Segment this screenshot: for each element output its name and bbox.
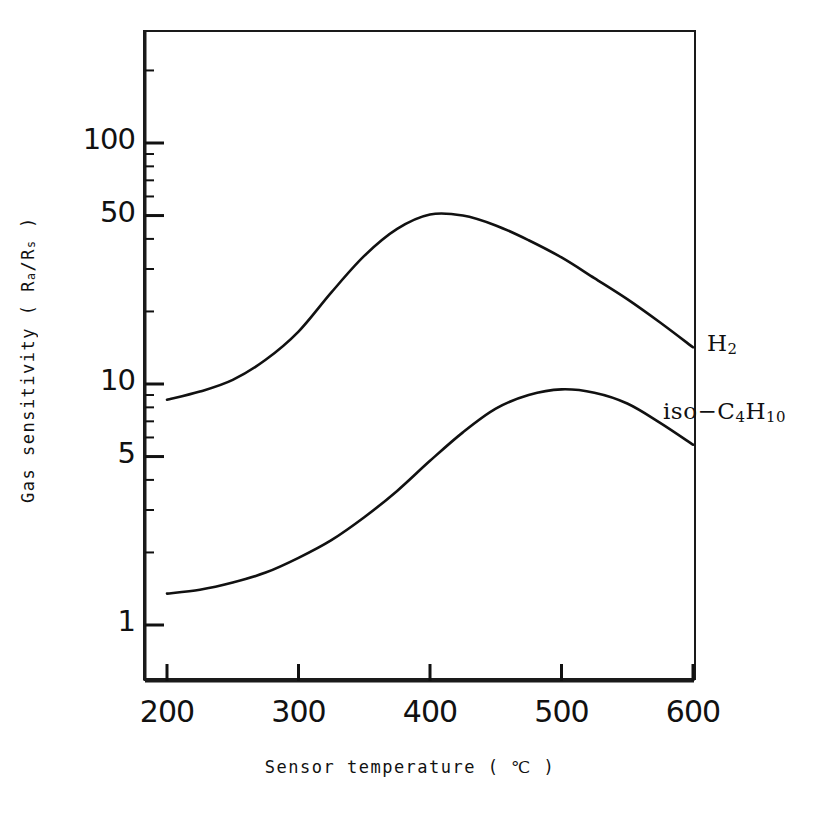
- x-axis-title-text: Sensor temperature ( ℃ ): [265, 757, 555, 777]
- x-axis-title: Sensor temperature ( ℃ ): [0, 757, 820, 777]
- y-axis-title: Gas sensitivity ( Ra/Rs ): [18, 150, 58, 570]
- plot-frame: [143, 30, 696, 680]
- x-axis-tick-label: 300: [239, 694, 359, 729]
- series-label-isobutane: iso−C4H10: [663, 398, 786, 426]
- y-axis-title-text: Gas sensitivity ( Ra/Rs ): [18, 217, 38, 504]
- chart-figure: 151050100 200300400500600 Gas sensitivit…: [0, 0, 820, 816]
- x-axis-tick-label: 400: [370, 694, 490, 729]
- x-axis-tick-label: 600: [633, 694, 753, 729]
- series-label-hydrogen: H2: [707, 330, 738, 358]
- y-axis-tick-label: 1: [40, 604, 135, 638]
- x-axis-tick-label: 200: [107, 694, 227, 729]
- x-axis-tick-label: 500: [502, 694, 622, 729]
